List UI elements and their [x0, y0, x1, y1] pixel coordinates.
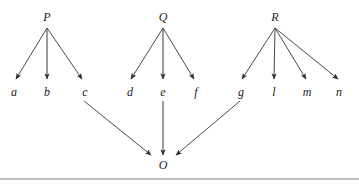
diagram-canvas: PQRabcdefglmnO — [0, 0, 359, 187]
node-label-l: l — [272, 85, 276, 99]
edge-c-to-o — [84, 101, 151, 155]
edge-r-to-n — [275, 28, 338, 79]
node-label-g: g — [238, 85, 244, 99]
node-label-r: R — [270, 10, 279, 24]
node-label-o: O — [159, 158, 168, 172]
diagram-svg: PQRabcdefglmnO — [0, 0, 359, 187]
node-label-e: e — [160, 85, 166, 99]
edge-q-to-d — [131, 28, 163, 79]
node-label-m: m — [303, 85, 312, 99]
node-label-d: d — [127, 85, 134, 99]
node-label-q: Q — [159, 10, 168, 24]
edge-r-to-l — [274, 28, 275, 79]
edge-g-to-o — [176, 101, 240, 155]
node-label-f: f — [194, 85, 199, 99]
node-label-b: b — [44, 85, 50, 99]
edge-r-to-g — [242, 28, 275, 79]
edge-p-to-c — [47, 28, 82, 79]
node-label-c: c — [82, 85, 88, 99]
edge-r-to-m — [275, 28, 306, 79]
edges-layer — [16, 28, 338, 155]
edge-q-to-f — [163, 28, 194, 79]
edge-p-to-a — [16, 28, 47, 79]
nodes-layer: PQRabcdefglmnO — [11, 10, 342, 172]
node-label-a: a — [11, 85, 17, 99]
node-label-n: n — [336, 85, 342, 99]
node-label-p: P — [42, 10, 51, 24]
